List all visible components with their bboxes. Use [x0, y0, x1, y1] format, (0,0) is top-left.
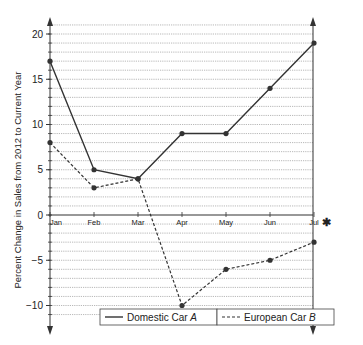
- x-tick-label: Jun: [264, 218, 276, 227]
- legend-label-domestic-car-a: Domestic Car A: [127, 312, 197, 323]
- arrow-down-icon: [310, 326, 316, 335]
- x-tick-label: May: [219, 218, 233, 227]
- data-point: [47, 59, 52, 64]
- x-tick-label: Mar: [132, 218, 145, 227]
- x-tick-label: Apr: [176, 218, 188, 227]
- data-point: [91, 167, 96, 172]
- x-tick-label: Jul: [309, 218, 319, 227]
- series-line-domestic-car-a: [50, 43, 314, 179]
- data-point: [179, 131, 184, 136]
- legend-label-european-car-b: European Car B: [244, 312, 316, 323]
- data-point: [311, 40, 316, 45]
- data-point: [311, 240, 316, 245]
- data-point: [223, 131, 228, 136]
- y-tick-label: 5: [37, 164, 43, 175]
- y-tick-label: −5: [32, 255, 44, 266]
- data-point: [267, 258, 272, 263]
- data-point: [91, 185, 96, 190]
- y-tick-label: 0: [37, 210, 43, 221]
- line-chart: 20151050−5−10JanFebMarAprMayJunJul✱Perce…: [0, 0, 363, 345]
- y-tick-label: −10: [26, 300, 43, 311]
- arrow-down-icon: [47, 326, 53, 335]
- chart-container: 20151050−5−10JanFebMarAprMayJunJul✱Perce…: [0, 0, 363, 345]
- data-point: [135, 176, 140, 181]
- y-tick-label: 15: [32, 74, 44, 85]
- y-tick-label: 20: [32, 29, 44, 40]
- x-tick-label: Feb: [88, 218, 101, 227]
- data-point: [267, 86, 272, 91]
- x-tick-label: Jan: [50, 218, 62, 227]
- arrow-up-icon: [310, 17, 316, 26]
- star-annotation-icon: ✱: [322, 216, 331, 228]
- data-point: [223, 267, 228, 272]
- data-point: [179, 303, 184, 308]
- y-tick-label: 10: [32, 119, 44, 130]
- y-axis-label: Percent Change in Sales from 2012 to Cur…: [12, 71, 23, 288]
- data-point: [47, 140, 52, 145]
